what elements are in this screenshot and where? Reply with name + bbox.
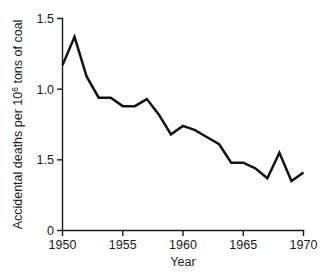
x-axis-title: Year — [170, 255, 195, 269]
y-tick-label: 1.0 — [37, 83, 54, 97]
x-tick-label: 1965 — [229, 238, 257, 252]
x-tick-label: 1970 — [290, 238, 318, 252]
x-tick-label: 1955 — [109, 238, 137, 252]
x-tick-label: 1950 — [49, 238, 77, 252]
y-axis-title: Accidental deaths per 106 tons of coal — [10, 20, 26, 230]
chart-figure: 01.51.01.519501955196019651970YearAccide… — [0, 0, 324, 274]
x-tick-label: 1960 — [169, 238, 197, 252]
line-chart: 01.51.01.519501955196019651970YearAccide… — [0, 0, 324, 274]
y-tick-label: 1.5 — [37, 12, 54, 26]
y-tick-label: 1.5 — [37, 153, 54, 167]
y-tick-label: 0 — [47, 224, 54, 238]
